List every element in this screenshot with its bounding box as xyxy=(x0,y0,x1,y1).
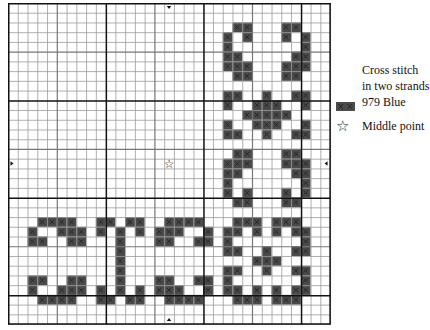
cross-stitch-swatch-icon xyxy=(336,97,355,106)
cross-stitch-chart: ☆ xyxy=(8,3,330,324)
center-marker-left-icon xyxy=(11,161,14,165)
center-marker-right-icon xyxy=(325,161,328,165)
legend: Cross stitch in two strands 979 Blue ☆ M… xyxy=(336,0,430,330)
middle-point-star-icon: ☆ xyxy=(336,118,349,134)
legend-middle-point-label: Middle point xyxy=(362,118,424,134)
legend-stitch-line2: in two strands xyxy=(362,78,429,94)
center-marker-top-icon xyxy=(167,6,171,9)
legend-color-label: 979 Blue xyxy=(362,94,406,110)
legend-stitch-line1: Cross stitch xyxy=(362,62,418,78)
middle-point-star-icon: ☆ xyxy=(164,157,175,171)
center-marker-bottom-icon xyxy=(167,318,171,321)
